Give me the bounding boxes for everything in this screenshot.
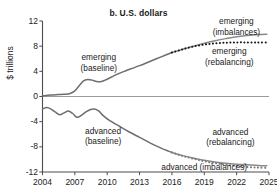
- annotation-line: (rebalancing): [206, 137, 254, 148]
- annotation-line: emerging: [81, 52, 117, 63]
- annotation-line: advanced: [206, 127, 254, 138]
- annotation-advanced-rebalancing: advanced(rebalancing): [206, 127, 254, 148]
- annotation-line: (baseline): [81, 63, 117, 74]
- annotation-advanced-baseline: advanced(baseline): [85, 126, 121, 147]
- annotation-emerging-rebalancing: emerging(rebalancing): [205, 46, 253, 67]
- annotation-line: advanced (imbalances): [161, 162, 247, 173]
- chart-container: b. U.S. dollars $ trillions 12840-4-8-12…: [0, 0, 277, 190]
- annotation-advanced-imbalances: advanced (imbalances): [161, 162, 247, 173]
- annotation-line: emerging: [205, 46, 253, 57]
- annotation-line: (rebalancing): [205, 57, 253, 68]
- annotation-emerging-imbalances: emerging(imbalances): [213, 16, 261, 37]
- annotation-line: (imbalances): [213, 27, 261, 38]
- annotation-line: (baseline): [85, 136, 121, 147]
- annotation-line: emerging: [213, 16, 261, 27]
- axes: [39, 21, 269, 175]
- annotation-emerging-baseline: emerging(baseline): [81, 52, 117, 73]
- annotation-line: advanced: [85, 126, 121, 137]
